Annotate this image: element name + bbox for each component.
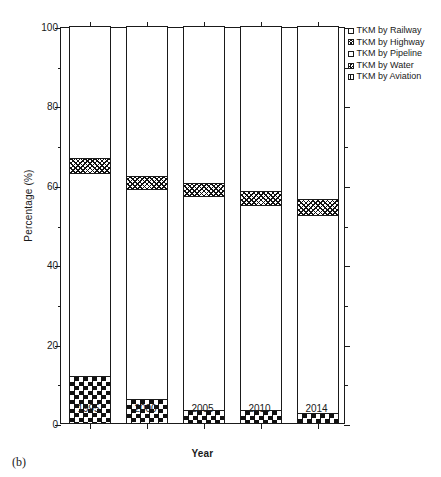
segment-pipeline[interactable]	[183, 196, 225, 410]
legend-item-2[interactable]: TKM by Pipeline	[348, 48, 425, 60]
y-tick-right	[344, 187, 350, 188]
segment-aviation[interactable]	[69, 26, 111, 158]
y-tick-label: 40	[18, 260, 58, 271]
y-tick-right	[344, 385, 348, 386]
segment-pipeline[interactable]	[126, 189, 168, 399]
bar-2014[interactable]	[297, 26, 339, 423]
segment-highway[interactable]	[126, 176, 168, 189]
y-tick-label: 20	[18, 340, 58, 351]
segment-pipeline[interactable]	[297, 215, 339, 413]
x-tick	[147, 423, 148, 429]
y-tick-right	[344, 266, 350, 267]
segment-pipeline[interactable]	[69, 173, 111, 376]
bar-2005[interactable]	[183, 26, 225, 423]
segment-highway[interactable]	[297, 199, 339, 215]
segment-highway[interactable]	[183, 183, 225, 196]
segment-aviation[interactable]	[297, 26, 339, 199]
y-tick-right	[344, 346, 350, 347]
y-tick	[58, 306, 62, 307]
segment-aviation[interactable]	[240, 26, 282, 191]
y-tick	[58, 227, 62, 228]
y-tick-label: 60	[18, 181, 58, 192]
y-tick-right	[344, 227, 348, 228]
legend-swatch-icon	[348, 39, 354, 45]
bar-2000[interactable]	[126, 26, 168, 423]
legend-swatch-icon	[348, 63, 354, 69]
y-tick	[58, 147, 62, 148]
legend-swatch-icon	[348, 74, 354, 80]
legend-swatch-icon	[348, 51, 354, 57]
legend-swatch-icon	[348, 28, 354, 34]
legend-label: TKM by Water	[357, 60, 414, 72]
y-tick	[58, 68, 62, 69]
legend-label: TKM by Railway	[357, 25, 422, 37]
segment-aviation[interactable]	[126, 26, 168, 176]
x-tick	[318, 423, 319, 429]
y-tick-label: 0	[18, 419, 58, 430]
segment-highway[interactable]	[240, 191, 282, 205]
bar-1995[interactable]	[69, 26, 111, 423]
segment-water[interactable]	[69, 376, 111, 423]
x-tick-label-2014: 2014	[287, 403, 347, 414]
y-tick-label: 80	[18, 101, 58, 112]
legend-item-0[interactable]: TKM by Railway	[348, 25, 425, 37]
y-tick-right	[344, 107, 350, 108]
y-tick-right	[344, 147, 348, 148]
y-tick-right	[344, 425, 350, 426]
y-tick-right	[344, 68, 348, 69]
x-tick	[261, 423, 262, 429]
x-tick-label-2010: 2010	[230, 403, 290, 414]
segment-highway[interactable]	[69, 158, 111, 173]
x-tick-label-2005: 2005	[173, 403, 233, 414]
y-tick	[58, 385, 62, 386]
bar-2010[interactable]	[240, 26, 282, 423]
y-tick-label: 100	[18, 22, 58, 33]
legend-label: TKM by Aviation	[357, 71, 422, 83]
legend-item-4[interactable]: TKM by Aviation	[348, 71, 425, 83]
panel-label: (b)	[12, 455, 26, 470]
chart-legend: TKM by RailwayTKM by HighwayTKM by Pipel…	[348, 25, 425, 83]
legend-item-3[interactable]: TKM by Water	[348, 60, 425, 72]
legend-label: TKM by Pipeline	[357, 48, 423, 60]
x-tick-label-2000: 2000	[116, 403, 176, 414]
legend-item-1[interactable]: TKM by Highway	[348, 37, 425, 49]
segment-aviation[interactable]	[183, 26, 225, 183]
stacked-bar-chart-figure: Percentage (%) 020406080100 199520002005…	[0, 0, 441, 477]
segment-water[interactable]	[297, 413, 339, 423]
plot-area: 020406080100	[60, 27, 345, 424]
x-tick	[90, 423, 91, 429]
x-axis-title: Year	[60, 448, 345, 459]
segment-pipeline[interactable]	[240, 205, 282, 410]
legend-label: TKM by Highway	[357, 37, 425, 49]
y-tick-right	[344, 306, 348, 307]
x-tick	[204, 423, 205, 429]
x-tick-label-1995: 1995	[59, 403, 119, 414]
